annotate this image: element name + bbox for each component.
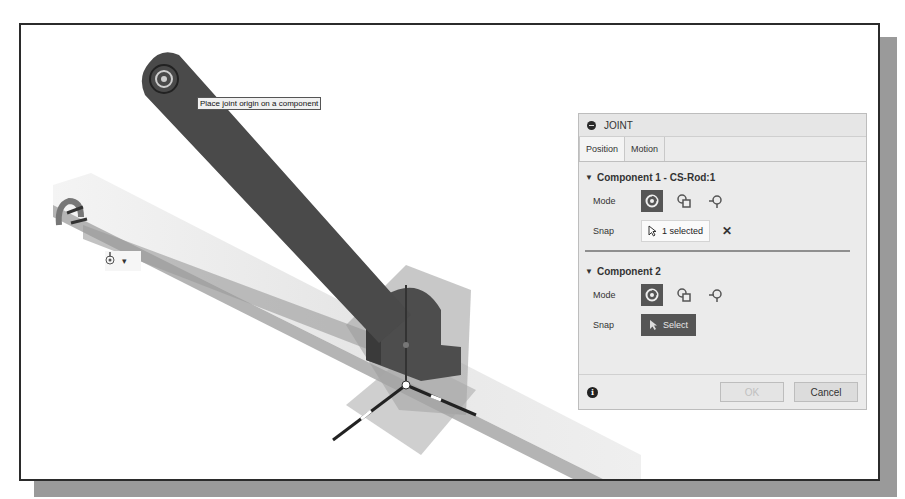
between-two-faces-button[interactable]	[673, 190, 695, 212]
clear-selection-icon[interactable]: ✕	[722, 224, 732, 238]
snap-label: Snap	[585, 320, 641, 330]
edge-intersection-icon	[709, 194, 723, 208]
two-edge-intersection-button[interactable]	[705, 284, 727, 306]
component1-snap-row: Snap 1 selected ✕	[585, 216, 860, 246]
cursor-arrow-icon	[648, 225, 658, 237]
between-faces-icon	[677, 194, 691, 208]
caret-down-icon: ▼	[585, 267, 593, 276]
chevron-down-icon[interactable]: ▾	[122, 256, 127, 266]
component1-section: ▼ Component 1 - CS-Rod:1 Mode	[579, 162, 866, 256]
base-bar	[53, 173, 641, 481]
component1-mode-row: Mode	[585, 186, 860, 216]
simple-mode-icon	[645, 194, 659, 208]
screenshot-frame: Place joint origin on a component ▾ JOIN…	[19, 23, 880, 481]
component1-title: Component 1 - CS-Rod:1	[597, 172, 715, 183]
snap-selected-text: 1 selected	[662, 226, 703, 236]
caret-down-icon: ▼	[585, 173, 593, 182]
simple-mode-button[interactable]	[641, 190, 663, 212]
snap-label: Snap	[585, 226, 641, 236]
panel-header: JOINT	[579, 114, 866, 137]
two-edge-intersection-button[interactable]	[705, 190, 727, 212]
select-button[interactable]: Select	[641, 314, 696, 336]
simple-mode-icon	[645, 288, 659, 302]
tab-position[interactable]: Position	[579, 137, 625, 161]
simple-mode-button[interactable]	[641, 284, 663, 306]
mode-label: Mode	[585, 290, 641, 300]
component1-header[interactable]: ▼ Component 1 - CS-Rod:1	[585, 168, 860, 186]
cursor-arrow-icon	[649, 319, 659, 331]
joint-panel: JOINT Position Motion ▼ Component 1 - CS…	[578, 113, 867, 410]
between-two-faces-button[interactable]	[673, 284, 695, 306]
component2-mode-row: Mode	[585, 280, 860, 310]
joint-command-icon	[587, 121, 596, 130]
panel-footer: i OK Cancel	[579, 374, 866, 409]
panel-tabs: Position Motion	[579, 137, 866, 162]
cancel-button[interactable]: Cancel	[794, 382, 858, 402]
between-faces-icon	[677, 288, 691, 302]
tooltip: Place joint origin on a component	[197, 97, 321, 110]
section-divider	[585, 250, 850, 252]
ok-button[interactable]: OK	[720, 382, 784, 402]
snap-selection-field[interactable]: 1 selected	[641, 220, 710, 242]
component2-snap-row: Snap Select	[585, 310, 860, 340]
select-button-label: Select	[663, 320, 688, 330]
edge-intersection-icon	[709, 288, 723, 302]
component2-title: Component 2	[597, 266, 661, 277]
panel-title: JOINT	[604, 120, 633, 131]
info-icon[interactable]: i	[587, 387, 598, 398]
component2-section: ▼ Component 2 Mode Snap	[579, 256, 866, 344]
mode-label: Mode	[585, 196, 641, 206]
component2-header[interactable]: ▼ Component 2	[585, 262, 860, 280]
joint-origin-mini-toolbar[interactable]: ▾	[105, 251, 141, 271]
tab-motion[interactable]: Motion	[625, 137, 665, 161]
